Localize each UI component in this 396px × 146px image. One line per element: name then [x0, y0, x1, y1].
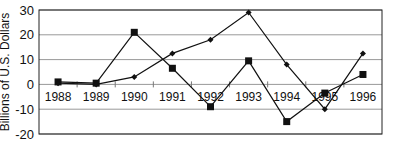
y-tick-label: 0 [27, 77, 34, 92]
square-marker [359, 71, 366, 78]
y-tick-label: 20 [20, 27, 34, 42]
x-tick-label: 1993 [235, 90, 262, 104]
x-tick-label: 1988 [45, 90, 72, 104]
x-tick-label: 1990 [121, 90, 148, 104]
y-tick-label: 30 [20, 3, 34, 18]
chart-svg: 3020100-10-20 19881989199019911992199319… [0, 0, 396, 146]
y-axis-tick-labels: 3020100-10-20 [15, 3, 34, 142]
y-tick-label: -10 [15, 102, 34, 117]
square-marker [169, 65, 176, 72]
y-tick-label: 10 [20, 52, 34, 67]
x-tick-label: 1994 [273, 90, 300, 104]
square-marker [131, 29, 138, 36]
x-tick-label: 1996 [350, 90, 377, 104]
gridlines [39, 10, 382, 134]
series-square [55, 29, 367, 125]
diamond-marker [131, 74, 137, 80]
diamond-marker [169, 50, 175, 56]
data-series [55, 9, 367, 125]
square-marker [245, 57, 252, 64]
y-axis-label: Billions of U.S. Dollars [0, 13, 12, 132]
square-marker [321, 90, 328, 97]
square-marker [283, 118, 290, 125]
square-marker [207, 103, 214, 110]
plot-area-border [39, 10, 382, 134]
y-tick-label: -20 [15, 127, 34, 142]
line-chart: 3020100-10-20 19881989199019911992199319… [0, 0, 396, 146]
x-tick-label: 1989 [83, 90, 110, 104]
x-tick-label: 1991 [159, 90, 186, 104]
